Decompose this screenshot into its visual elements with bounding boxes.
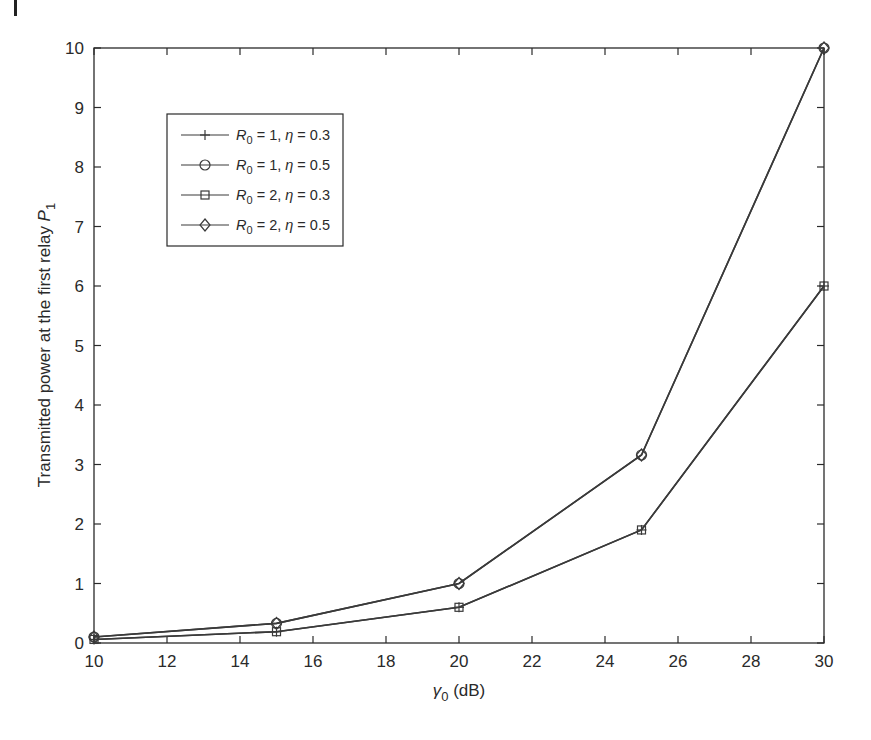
x-tick-label: 30 <box>815 652 834 671</box>
y-tick-label: 10 <box>65 39 84 58</box>
y-tick-label: 6 <box>75 277 84 296</box>
x-tick-label: 20 <box>450 652 469 671</box>
x-tick-label: 12 <box>158 652 177 671</box>
y-axis-label: Transmitted power at the first relay P1 <box>35 203 58 487</box>
x-tick-label: 14 <box>231 652 250 671</box>
x-tick-label: 22 <box>523 652 542 671</box>
y-tick-label: 0 <box>75 634 84 653</box>
y-tick-label: 9 <box>75 99 84 118</box>
y-tick-label: 1 <box>75 575 84 594</box>
x-tick-label: 16 <box>304 652 323 671</box>
y-tick-label: 4 <box>75 396 84 415</box>
legend: R0 = 1, η = 0.3R0 = 1, η = 0.5R0 = 2, η … <box>167 114 343 246</box>
y-tick-label: 5 <box>75 337 84 356</box>
x-tick-label: 26 <box>669 652 688 671</box>
line-chart: 1012141618202224262830012345678910 R0 = … <box>0 0 871 740</box>
x-tick-label: 10 <box>85 652 104 671</box>
x-tick-label: 28 <box>742 652 761 671</box>
y-tick-label: 2 <box>75 515 84 534</box>
x-tick-label: 18 <box>377 652 396 671</box>
y-tick-label: 3 <box>75 456 84 475</box>
y-tick-label: 7 <box>75 218 84 237</box>
x-axis-label: γ0 (dB) <box>433 681 486 704</box>
x-tick-label: 24 <box>596 652 615 671</box>
y-tick-label: 8 <box>75 158 84 177</box>
